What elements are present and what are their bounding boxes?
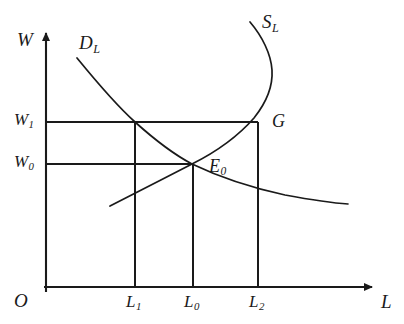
point-label-e0: E0 [209, 157, 226, 175]
point-label-g: G [272, 112, 285, 130]
x-tick-label-l0: L0 [184, 293, 199, 310]
y-axis-label: W [17, 30, 33, 49]
x-tick-label-l2: L2 [249, 293, 264, 310]
x-tick-label-l1: L1 [126, 293, 141, 310]
supply-curve-label: SL [262, 12, 278, 31]
x-axis-label: L [381, 292, 392, 311]
demand-curve [77, 58, 348, 204]
y-tick-label-w1: W1 [14, 111, 34, 128]
supply-curve [110, 22, 272, 206]
labor-market-diagram: W L O DL SL E0 G W1 W0 L1 L0 L2 [0, 0, 404, 324]
diagram-canvas [0, 0, 404, 324]
demand-curve-label: DL [79, 33, 100, 52]
origin-label: O [14, 291, 28, 310]
y-tick-label-w0: W0 [14, 153, 34, 170]
